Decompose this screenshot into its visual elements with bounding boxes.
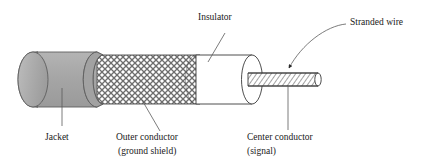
jacket-part	[18, 52, 103, 107]
label-outer-conductor-line2: (ground shield)	[118, 146, 176, 157]
leader-outer-conductor	[142, 100, 160, 131]
label-outer-conductor-line1: Outer conductor	[116, 132, 179, 142]
label-jacket: Jacket	[45, 132, 69, 142]
label-center-conductor-line2: (signal)	[247, 146, 276, 157]
label-center-conductor-line1: Center conductor	[247, 132, 314, 142]
label-insulator: Insulator	[198, 12, 233, 22]
coax-cable-diagram: Insulator Stranded wire Jacket Outer con…	[0, 0, 427, 167]
diagram-canvas: Insulator Stranded wire Jacket Outer con…	[0, 0, 427, 167]
leader-stranded-wire	[289, 24, 346, 68]
cable-assembly	[18, 52, 321, 107]
outer-conductor-part	[93, 55, 200, 104]
label-stranded-wire: Stranded wire	[350, 17, 403, 27]
center-conductor-part	[248, 73, 321, 86]
